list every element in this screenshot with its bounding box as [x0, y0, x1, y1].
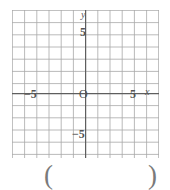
open-paren: ( [44, 160, 53, 190]
x-tick-label-minus-5: −5 [24, 88, 37, 100]
origin-label: O [79, 88, 88, 100]
worksheet-coordinate-plane-figure: y 5 −5 −5 O 5 x ( ) [0, 0, 170, 190]
answer-blank[interactable]: ( ) [0, 160, 170, 190]
x-tick-label-5: 5 [130, 88, 136, 100]
x-axis-label: x [145, 87, 149, 97]
close-paren: ) [148, 160, 157, 190]
y-tick-label-minus-5: −5 [72, 128, 85, 140]
coordinate-plane: y 5 −5 −5 O 5 x [12, 10, 159, 158]
y-tick-label-5: 5 [80, 26, 86, 38]
y-axis-label: y [81, 10, 85, 20]
